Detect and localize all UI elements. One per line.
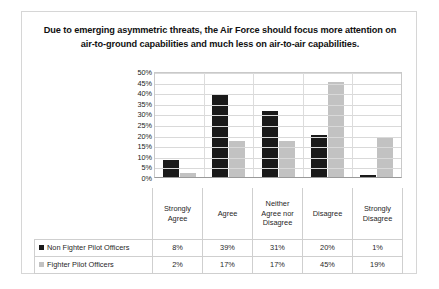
bar[interactable] <box>180 173 196 177</box>
legend-entry[interactable]: Non Fighter Pilot Officers <box>35 240 153 257</box>
bars-layer <box>155 73 401 177</box>
category-separator <box>253 73 254 177</box>
table-header-row: Strongly AgreeAgreeNeither Agree nor Dis… <box>35 188 403 240</box>
category-separator <box>352 73 353 177</box>
y-axis-tick: 35% <box>122 99 152 108</box>
bar[interactable] <box>262 111 278 177</box>
data-table: Strongly AgreeAgreeNeither Agree nor Dis… <box>34 188 403 274</box>
y-axis-tick: 15% <box>122 142 152 151</box>
y-axis-tick: 10% <box>122 152 152 161</box>
table-row: Non Fighter Pilot Officers8%39%31%20%1% <box>35 240 403 257</box>
gridline <box>155 84 401 85</box>
bar[interactable] <box>311 135 327 177</box>
bar-group <box>303 73 352 177</box>
plot-region: 50%45%40%35%30%25%20%15%10%5%0% <box>22 69 416 188</box>
gridline <box>155 94 401 95</box>
y-axis-tick: 25% <box>122 121 152 130</box>
table-value-cell: 31% <box>253 240 303 257</box>
y-axis-tick: 5% <box>122 163 152 172</box>
bar-group <box>204 73 253 177</box>
legend-label: Fighter Pilot Officers <box>47 260 114 269</box>
gridline <box>155 115 401 116</box>
y-axis-tick: 50% <box>122 68 152 77</box>
gridline <box>155 168 401 169</box>
table-value-cell: 39% <box>203 240 253 257</box>
legend-entry[interactable]: Fighter Pilot Officers <box>35 257 153 274</box>
gridline <box>155 158 401 159</box>
bar-group <box>253 73 302 177</box>
data-table-body: Strongly AgreeAgreeNeither Agree nor Dis… <box>35 188 403 274</box>
chart-title: Due to emerging asymmetric threats, the … <box>38 23 402 51</box>
gridline <box>155 105 401 106</box>
y-axis-tick: 30% <box>122 110 152 119</box>
table-value-cell: 8% <box>153 240 203 257</box>
y-axis-tick: 40% <box>122 89 152 98</box>
bar-group <box>352 73 401 177</box>
y-axis-tick: 0% <box>122 174 152 183</box>
bar[interactable] <box>328 82 344 177</box>
category-separator <box>204 73 205 177</box>
legend-swatch-icon <box>39 245 44 250</box>
legend-label: Non Fighter Pilot Officers <box>47 243 129 252</box>
category-header-cell: Strongly Disagree <box>353 188 403 240</box>
gridline <box>155 137 401 138</box>
table-value-cell: 17% <box>253 257 303 274</box>
category-header-cell: Disagree <box>303 188 353 240</box>
table-row: Fighter Pilot Officers2%17%17%45%19% <box>35 257 403 274</box>
table-value-cell: 2% <box>153 257 203 274</box>
y-axis-tick: 45% <box>122 78 152 87</box>
table-value-cell: 20% <box>303 240 353 257</box>
bar[interactable] <box>360 175 376 177</box>
table-value-cell: 17% <box>203 257 253 274</box>
table-value-cell: 1% <box>353 240 403 257</box>
gridline <box>155 73 401 74</box>
plot-area <box>154 72 402 178</box>
category-separator <box>303 73 304 177</box>
category-header-cell: Strongly Agree <box>153 188 203 240</box>
table-value-cell: 45% <box>303 257 353 274</box>
bar-group <box>155 73 204 177</box>
category-header-cell: Neither Agree nor Disagree <box>253 188 303 240</box>
y-axis-tick: 20% <box>122 131 152 140</box>
gridline <box>155 126 401 127</box>
y-axis: 50%45%40%35%30%25%20%15%10%5%0% <box>122 69 152 177</box>
table-corner-cell <box>35 188 153 240</box>
gridline <box>155 147 401 148</box>
category-header-cell: Agree <box>203 188 253 240</box>
chart-container: Due to emerging asymmetric threats, the … <box>21 11 417 274</box>
legend-swatch-icon <box>39 262 44 267</box>
table-value-cell: 19% <box>353 257 403 274</box>
